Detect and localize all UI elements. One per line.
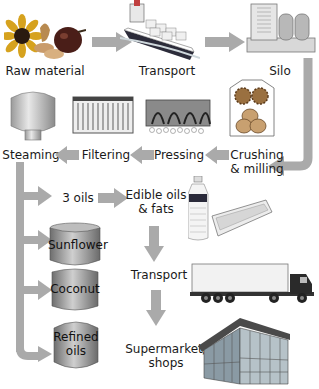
arrow-down-icon (146, 290, 166, 326)
label-transport-1: Transport (132, 64, 202, 78)
label-edible-line2: & fats (124, 202, 188, 216)
label-edible-oils: Edible oils & fats (124, 188, 188, 216)
label-crushing-line2: & milling (228, 162, 286, 176)
silo-image (245, 2, 317, 56)
steaming-tank-image (8, 86, 58, 146)
arrow-left-icon (55, 146, 79, 164)
label-crushing-line1: Crushing (228, 148, 286, 162)
filter-press-image (72, 96, 134, 136)
label-filtering: Filtering (78, 148, 134, 162)
tank-sunflower: Sunflower (48, 222, 102, 268)
label-three-oils: 3 oils (58, 191, 98, 205)
tank-label-refined-line1: Refined (52, 330, 100, 344)
tank-refined-oils: Refined oils (52, 318, 100, 372)
label-steaming: Steaming (2, 148, 60, 162)
arrow-right-icon (205, 32, 245, 52)
cargo-ship-image (120, 0, 200, 62)
arrow-left-icon (130, 146, 154, 164)
label-raw-material: Raw material (2, 64, 88, 78)
screw-press-image (144, 96, 212, 138)
label-transport-2: Transport (126, 268, 192, 282)
arrow-left-icon (205, 146, 229, 164)
raw-material-image (4, 8, 86, 66)
crushing-mill-image (228, 78, 276, 138)
oil-bottle-and-margarine-image (188, 176, 274, 244)
tank-label-coconut: Coconut (48, 282, 102, 296)
label-crushing: Crushing & milling (228, 148, 286, 176)
tank-label-sunflower: Sunflower (48, 238, 102, 252)
label-edible-line1: Edible oils (124, 188, 188, 202)
tank-coconut: Coconut (48, 266, 102, 314)
label-pressing: Pressing (152, 148, 206, 162)
truck-image (190, 262, 316, 306)
arrow-down-icon (144, 226, 164, 262)
tank-label-refined-line2: oils (52, 344, 100, 358)
supermarket-building-image (196, 318, 292, 386)
